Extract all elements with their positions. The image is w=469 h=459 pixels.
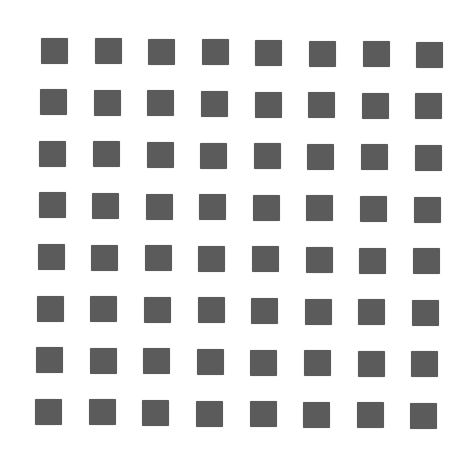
grid-square [199, 194, 226, 220]
grid-square [255, 40, 282, 66]
grid-square [416, 42, 443, 68]
grid-square [305, 299, 332, 325]
grid-square [308, 92, 335, 118]
grid-square [41, 38, 68, 64]
square-grid [0, 0, 469, 459]
grid-square [362, 93, 389, 119]
grid-square [255, 92, 282, 118]
grid-square [40, 89, 67, 115]
grid-square [144, 297, 171, 323]
grid-square [91, 245, 118, 271]
grid-square [196, 401, 223, 427]
grid-square [198, 246, 225, 272]
grid-square [200, 143, 227, 169]
grid-square [39, 141, 66, 167]
grid-square [38, 244, 65, 270]
grid-square [95, 38, 122, 64]
grid-square [36, 347, 63, 373]
grid-square [307, 144, 334, 170]
grid-square [357, 402, 384, 428]
grid-square [90, 296, 117, 322]
grid-square [35, 399, 62, 425]
grid-square [250, 350, 277, 376]
grid-square [363, 41, 390, 67]
grid-square [306, 247, 333, 273]
grid-square [359, 248, 386, 274]
grid-square [358, 299, 385, 325]
grid-square [250, 401, 277, 427]
grid-square [197, 349, 224, 375]
grid-square [198, 297, 225, 323]
grid-square [358, 351, 385, 377]
grid-square [202, 39, 229, 65]
grid-square [143, 348, 170, 374]
grid-square [309, 41, 336, 67]
grid-square [414, 197, 441, 223]
grid-square [415, 93, 442, 119]
grid-square [410, 403, 437, 429]
grid-square [142, 400, 169, 426]
grid-square [304, 350, 331, 376]
grid-square [361, 144, 388, 170]
grid-square [90, 348, 117, 374]
grid-square [89, 399, 116, 425]
grid-square [413, 248, 440, 274]
grid-square [94, 90, 121, 116]
grid-square [201, 91, 228, 117]
grid-square [148, 39, 175, 65]
grid-square [146, 194, 173, 220]
grid-square [253, 195, 280, 221]
grid-square [39, 192, 66, 218]
grid-square [415, 145, 442, 171]
grid-square [92, 193, 119, 219]
grid-square [147, 90, 174, 116]
grid-square [412, 300, 439, 326]
grid-square [251, 298, 278, 324]
grid-square [306, 195, 333, 221]
grid-square [93, 141, 120, 167]
grid-square [37, 296, 64, 322]
grid-square [147, 142, 174, 168]
grid-square [145, 245, 172, 271]
grid-square [360, 196, 387, 222]
grid-square [254, 143, 281, 169]
grid-square [252, 246, 279, 272]
grid-square [303, 402, 330, 428]
grid-square [411, 351, 438, 377]
